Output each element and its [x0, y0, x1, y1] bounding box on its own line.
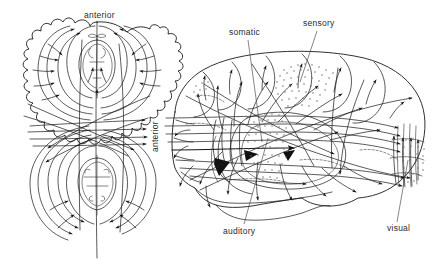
- dorsal-posterior-left-lobe: [66, 146, 95, 224]
- figure-canvas: [0, 0, 439, 269]
- label-somatic: somatic: [229, 28, 260, 37]
- dorsal-arc-d3: [104, 130, 156, 234]
- brain-fiber-tract-figure: anterior anterior somatic sensory audito…: [0, 0, 439, 269]
- dorsal-rim-feather-12: [126, 201, 144, 210]
- label-sensory: sensory: [303, 19, 335, 28]
- dorsal-arc-d1: [102, 140, 136, 222]
- label-anterior-top: anterior: [84, 11, 115, 20]
- dorsal-posterior-ventricle-inner: [82, 162, 113, 206]
- label-auditory: auditory: [223, 227, 255, 236]
- lateral-brain-panel: [165, 51, 425, 220]
- label-anterior-vertical: anterior: [151, 121, 160, 152]
- dorsal-rim-feather-10: [50, 201, 68, 210]
- label-visual: visual: [387, 224, 410, 233]
